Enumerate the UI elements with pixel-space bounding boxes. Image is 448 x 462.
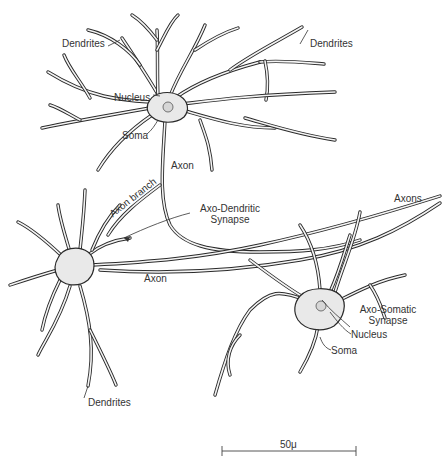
dendrite-15	[98, 115, 152, 170]
label-axo-somatic-line1: Axo-Somatic	[352, 304, 424, 315]
leader-dendrites-top-right	[300, 30, 308, 44]
leader-soma-bottom	[320, 337, 331, 350]
dendrite-35-fill	[215, 293, 305, 395]
label-axo-dendritic-line2: Synapse	[190, 214, 270, 225]
dendrite-14-fill	[50, 105, 80, 120]
dendrite-13-fill	[42, 108, 150, 128]
label-axo-dendritic-synapse: Axo-Dendritic Synapse	[190, 203, 270, 225]
label-soma-top: Soma	[122, 130, 148, 141]
dendrite-42	[300, 326, 318, 372]
label-axo-somatic-synapse: Axo-Somatic Synapse	[352, 304, 424, 326]
dendrite-35	[215, 293, 305, 395]
dendrite-28-fill	[10, 270, 58, 285]
label-dendrites-bottom: Dendrites	[88, 397, 131, 408]
dendrite-15-fill	[98, 115, 152, 170]
label-axon-top: Axon	[171, 160, 194, 171]
label-nucleus-top: Nucleus	[114, 92, 150, 103]
upper-nucleus	[163, 102, 173, 112]
dendrite-12-fill	[64, 55, 90, 98]
dendrite-36	[228, 335, 240, 375]
label-axons-right: Axons	[394, 193, 422, 204]
label-soma-bottom: Soma	[331, 345, 357, 356]
dendrite-7-fill	[175, 62, 260, 98]
dendrite-7	[175, 62, 260, 98]
leader-soma-top	[147, 120, 158, 134]
label-axo-dendritic-line1: Axo-Dendritic	[190, 203, 270, 214]
dendrite-16	[182, 110, 275, 128]
lower-neuron-soma	[295, 289, 344, 330]
upper-neuron-soma	[147, 93, 187, 123]
label-dendrites-top-right: Dendrites	[310, 38, 353, 49]
left-neuron-soma	[55, 248, 94, 285]
label-dendrites-top-left: Dendrites	[62, 38, 105, 49]
dendrite-17	[182, 92, 335, 104]
label-nucleus-bottom: Nucleus	[351, 329, 387, 340]
label-axo-somatic-line2: Synapse	[352, 315, 424, 326]
dendrite-32-fill	[90, 330, 116, 385]
dendrite-25-fill	[58, 205, 70, 252]
neuron-diagram	[0, 0, 448, 462]
label-axon-middle: Axon	[144, 273, 167, 284]
dendrite-29	[42, 280, 60, 330]
dendrite-0-fill	[122, 38, 160, 98]
scale-bar-label: 50μ	[280, 439, 297, 450]
